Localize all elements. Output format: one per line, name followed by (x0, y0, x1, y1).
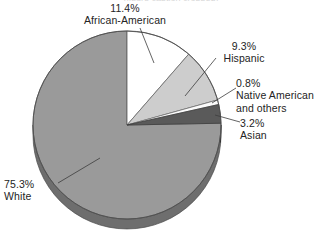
slice-name-white: White (4, 190, 34, 202)
slice-name-hispanic: Hispanic (202, 52, 286, 64)
slice-name-african-american: African-American (66, 14, 184, 26)
slice-value-asian: 3.2% (240, 117, 267, 129)
slice-label-white: 75.3% White (4, 178, 34, 203)
pie-chart-graphic (0, 0, 324, 233)
slice-value-white: 75.3% (4, 178, 34, 190)
slice-name-asian: Asian (240, 129, 267, 141)
slice-name-native-american-line2: and others (236, 102, 314, 114)
slice-value-african-american: 11.4% (66, 2, 184, 14)
slice-label-african-american: 11.4% African-American (66, 2, 184, 27)
pie-chart-figure: (figure caption cropped) (0, 0, 324, 233)
slice-label-asian: 3.2% Asian (240, 117, 267, 142)
slice-label-hispanic: 9.3% Hispanic (202, 40, 286, 65)
slice-value-hispanic: 9.3% (202, 40, 286, 52)
pie-top-face (33, 31, 221, 219)
slice-label-native-american: 0.8% Native American and others (236, 77, 314, 114)
slice-value-native-american: 0.8% (236, 77, 314, 89)
cropped-caption-text: (figure caption cropped) (96, 0, 246, 1)
slice-name-native-american-line1: Native American (236, 89, 314, 101)
